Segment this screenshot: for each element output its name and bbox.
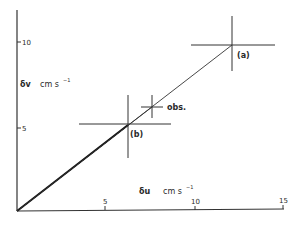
y-tick-label-10: 10 — [22, 39, 31, 47]
y-axis-label-exp: −1 — [63, 77, 70, 83]
x-axis-label-unit: cm s — [163, 187, 182, 196]
point-b-label: (b) — [130, 130, 143, 139]
x-tick-label-5: 5 — [103, 198, 107, 206]
y-tick-label-5: 5 — [22, 125, 26, 133]
x-tick-label-15: 15 — [279, 197, 288, 205]
y-axis-label-symbol: δv — [20, 80, 31, 89]
chart: 10 5 5 10 15 δv cm s −1 δu cm s −1 (a) (… — [0, 0, 296, 225]
point-obs-errorbars — [141, 95, 163, 118]
x-axis-label-exp: −1 — [186, 184, 193, 190]
x-tick-label-10: 10 — [191, 198, 200, 206]
point-a-errorbars — [191, 16, 275, 71]
x-axis-label-symbol: δu — [139, 187, 150, 196]
y-axis-label-unit: cm s — [40, 80, 59, 89]
point-obs-label: obs. — [167, 103, 186, 112]
line-origin-obs — [17, 107, 152, 211]
x-axis — [17, 209, 284, 211]
point-a-label: (a) — [237, 51, 250, 60]
